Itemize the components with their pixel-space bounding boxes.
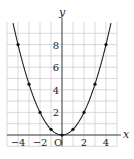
data-point <box>27 83 30 86</box>
x-tick-label: 2 <box>81 137 87 148</box>
data-point <box>82 111 85 114</box>
data-point <box>16 43 19 46</box>
y-tick-label: 2 <box>53 107 59 118</box>
x-axis-label: x <box>123 128 130 141</box>
data-point <box>93 83 96 86</box>
parabola-chart: x y O −4−2242468 <box>0 0 134 159</box>
origin-label: O <box>54 137 62 148</box>
x-tick-label: −4 <box>11 137 26 148</box>
data-point <box>49 128 52 131</box>
y-axis-label: y <box>58 6 66 19</box>
x-tick-label: 4 <box>103 137 109 148</box>
axis-labels: x y O <box>54 6 130 148</box>
data-point <box>104 43 107 46</box>
y-tick-label: 4 <box>53 85 59 96</box>
data-point <box>71 128 74 131</box>
x-tick-label: −2 <box>33 137 48 148</box>
axes <box>7 18 121 146</box>
y-tick-label: 6 <box>53 62 59 73</box>
y-tick-label: 8 <box>53 40 59 51</box>
data-point <box>38 111 41 114</box>
